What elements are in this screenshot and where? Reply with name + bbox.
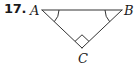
triangle-figure: A B C <box>0 0 140 74</box>
angle-arc-a-icon <box>54 10 59 22</box>
vertex-label-c: C <box>78 51 88 66</box>
side-bc <box>82 10 122 48</box>
triangle-sides <box>42 10 122 48</box>
vertex-label-a: A <box>29 3 39 18</box>
side-ac <box>42 10 82 48</box>
right-angle-mark-icon <box>75 35 89 42</box>
vertex-label-b: B <box>123 3 134 18</box>
angle-arc-b-icon <box>105 10 110 22</box>
